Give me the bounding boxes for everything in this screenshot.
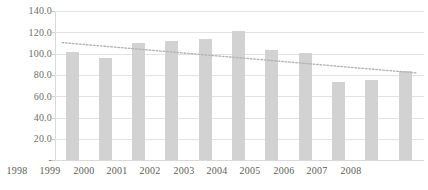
y-axis-tick-80: 80.0 xyxy=(4,70,52,80)
plot-area xyxy=(55,11,424,160)
y-axis-tick-100: 100.0 xyxy=(4,49,52,59)
y-axis-tick-140: 140.0 xyxy=(4,6,52,16)
x-axis-tick-2001: 2001 xyxy=(100,165,134,176)
bar-2007 xyxy=(365,80,378,160)
bar-2008 xyxy=(399,71,412,160)
x-axis-tick-2003: 2003 xyxy=(167,165,201,176)
x-axis-tick-2006: 2006 xyxy=(267,165,301,176)
y-axis-tick-0: - xyxy=(4,155,52,165)
x-axis-tick-2005: 2005 xyxy=(233,165,267,176)
bar-2002 xyxy=(199,39,212,160)
x-axis-tick-2002: 2002 xyxy=(133,165,167,176)
x-axis-line xyxy=(55,160,424,161)
bar-chart: 140.0 120.0 100.0 80.0 60.0 40.0 20.0 - xyxy=(0,0,428,190)
bar-2006 xyxy=(332,82,345,160)
bar-1998 xyxy=(66,52,79,161)
y-axis-tick-120: 120.0 xyxy=(4,28,52,38)
y-axis-labels: 140.0 120.0 100.0 80.0 60.0 40.0 20.0 - xyxy=(0,0,52,190)
y-axis-tick-60: 60.0 xyxy=(4,92,52,102)
x-axis-tick-2000: 2000 xyxy=(67,165,101,176)
bar-2005 xyxy=(299,53,312,161)
bar-2003 xyxy=(232,31,245,160)
x-axis-tick-1999: 1999 xyxy=(33,165,67,176)
y-axis-tick-40: 40.0 xyxy=(4,113,52,123)
x-axis-tick-2007: 2007 xyxy=(300,165,334,176)
x-axis-tick-1998: 1998 xyxy=(0,165,34,176)
bar-2000 xyxy=(132,43,145,160)
y-axis-tick-20: 20.0 xyxy=(4,134,52,144)
bar-2001 xyxy=(165,41,178,160)
bar-1999 xyxy=(99,58,112,160)
gridline-140 xyxy=(55,11,424,12)
x-axis-tick-2004: 2004 xyxy=(200,165,234,176)
x-axis-tick-2008: 2008 xyxy=(334,165,368,176)
bar-2004 xyxy=(265,50,278,160)
